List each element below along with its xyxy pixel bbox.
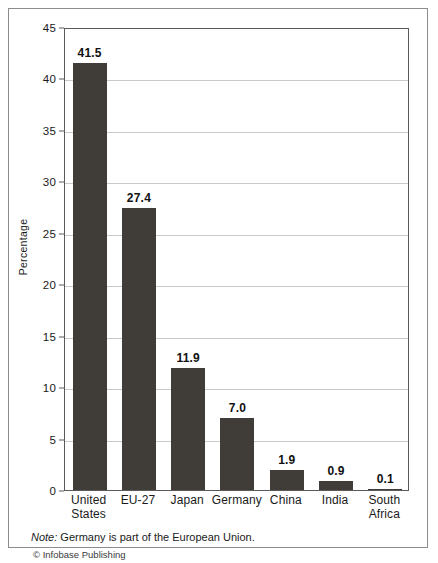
x-axis-category-label: SouthAfrica (360, 493, 409, 521)
y-axis-tick-label: 35 (43, 125, 56, 137)
bar[interactable] (122, 208, 156, 490)
bar-slot: 41.5 (65, 29, 114, 490)
bar-value-label: 41.5 (78, 46, 102, 60)
y-axis-tick-label: 10 (43, 382, 56, 394)
chart-figure-frame: Percentage 454035302520151050 41.527.411… (8, 8, 428, 548)
footer-credit: © Infobase Publishing (33, 549, 126, 560)
bar[interactable] (368, 489, 402, 490)
bar-slot: 27.4 (114, 29, 163, 490)
bar[interactable] (319, 481, 353, 490)
footer-note: Note: Germany is part of the European Un… (31, 531, 255, 543)
bar-value-label: 1.9 (278, 453, 295, 467)
bar-value-label: 11.9 (176, 351, 200, 365)
x-axis-category-label: EU-27 (113, 493, 162, 507)
x-axis-category-label: Japan (163, 493, 212, 507)
footer-note-lead: Note: (31, 531, 57, 543)
y-axis-tick-label: 15 (43, 331, 56, 343)
y-axis-tick-label: 20 (43, 279, 56, 291)
x-axis-category-label: China (261, 493, 310, 507)
bar-slot: 11.9 (164, 29, 213, 490)
bar-value-label: 0.1 (377, 472, 394, 486)
bar-slot: 7.0 (213, 29, 262, 490)
x-axis-label-line: South (360, 493, 409, 507)
bar[interactable] (73, 63, 107, 490)
footer-note-text: Germany is part of the European Union. (57, 531, 255, 543)
x-axis-label-line: Germany (212, 493, 261, 507)
x-axis-label-line: EU-27 (113, 493, 162, 507)
x-axis-label-line: Japan (163, 493, 212, 507)
plot-area: 41.527.411.97.01.90.90.1 (64, 28, 409, 491)
bar-value-label: 7.0 (229, 401, 246, 415)
x-axis-label-line: United (64, 493, 113, 507)
bar[interactable] (171, 368, 205, 490)
x-axis-label-line: China (261, 493, 310, 507)
x-axis-category-labels: UnitedStatesEU-27JapanGermanyChinaIndiaS… (64, 493, 409, 531)
bar-slot: 1.9 (262, 29, 311, 490)
x-axis-category-label: UnitedStates (64, 493, 113, 521)
x-axis-category-label: India (310, 493, 359, 507)
x-axis-label-line: Africa (360, 507, 409, 521)
y-axis-tick-labels: 454035302520151050 (9, 28, 64, 491)
y-axis-tick-label: 30 (43, 176, 56, 188)
x-axis-category-label: Germany (212, 493, 261, 507)
y-axis-tick-label: 45 (43, 22, 56, 34)
bar[interactable] (270, 470, 304, 490)
bar-slot: 0.9 (311, 29, 360, 490)
bar-value-label: 0.9 (327, 464, 344, 478)
y-axis-tick-label: 5 (49, 434, 56, 446)
bar-slot: 0.1 (361, 29, 410, 490)
x-axis-label-line: States (64, 507, 113, 521)
y-axis-tick-label: 25 (43, 228, 56, 240)
y-axis-tick-label: 0 (49, 485, 56, 497)
bar-value-label: 27.4 (127, 191, 151, 205)
y-axis-tick-label: 40 (43, 73, 56, 85)
x-axis-label-line: India (310, 493, 359, 507)
bar[interactable] (220, 418, 254, 490)
